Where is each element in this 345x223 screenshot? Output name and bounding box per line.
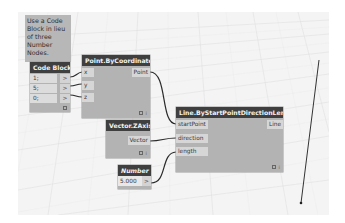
line-node-title: Line.ByStartPointDirectionLength bbox=[176, 107, 283, 118]
line-by-start-point-direction-length-node[interactable]: Line.ByStartPointDirectionLength startPo… bbox=[176, 107, 283, 172]
output-port-vector[interactable]: Vector bbox=[128, 136, 150, 145]
code-line-3[interactable]: 0; bbox=[30, 94, 57, 103]
info-icon[interactable]: i bbox=[146, 110, 147, 116]
code-line-1[interactable]: 1; bbox=[30, 74, 57, 83]
input-port-x[interactable]: x bbox=[82, 68, 94, 77]
input-port-z[interactable]: z bbox=[82, 93, 94, 102]
code-output-port-2[interactable]: > bbox=[60, 84, 70, 93]
input-port-direction[interactable]: direction bbox=[176, 134, 208, 143]
code-block-node[interactable]: Code Block 1; > 5; > 0; > bbox=[30, 62, 70, 112]
preview-icon[interactable] bbox=[272, 165, 276, 169]
preview-icon[interactable] bbox=[139, 151, 143, 155]
input-port-length[interactable]: length bbox=[176, 147, 208, 156]
info-icon[interactable]: i bbox=[279, 164, 280, 170]
number-node-title: Number bbox=[118, 165, 151, 176]
note-text: Use a Code Block in lieu of three Number… bbox=[27, 17, 65, 56]
code-output-port-3[interactable]: > bbox=[60, 94, 70, 103]
output-port-point[interactable]: Point bbox=[132, 68, 150, 77]
vector-zaxis-node[interactable]: Vector.ZAxis Vector i bbox=[106, 120, 150, 158]
number-node[interactable]: Number 5.000 > bbox=[118, 165, 151, 189]
preview-icon[interactable] bbox=[63, 106, 67, 110]
preview-icon[interactable] bbox=[139, 111, 143, 115]
vector-node-title: Vector.ZAxis bbox=[106, 120, 150, 131]
code-line-2[interactable]: 5; bbox=[30, 84, 57, 93]
node-footer: i bbox=[139, 150, 147, 156]
code-block-title: Code Block bbox=[30, 62, 70, 73]
info-icon[interactable]: i bbox=[146, 150, 147, 156]
input-port-startpoint[interactable]: startPoint bbox=[176, 120, 208, 129]
input-port-y[interactable]: y bbox=[82, 81, 94, 90]
code-output-port-1[interactable]: > bbox=[60, 74, 70, 83]
node-footer: i bbox=[272, 164, 280, 170]
node-footer: i bbox=[139, 110, 147, 116]
output-port-line[interactable]: Line bbox=[267, 120, 283, 129]
point-node-title: Point.ByCoordinates bbox=[82, 55, 150, 66]
node-footer bbox=[63, 106, 67, 110]
note-annotation[interactable]: Use a Code Block in lieu of three Number… bbox=[25, 15, 71, 62]
point-by-coordinates-node[interactable]: Point.ByCoordinates x y z Point i bbox=[82, 55, 150, 118]
number-value-input[interactable]: 5.000 bbox=[118, 176, 142, 186]
output-port-number[interactable]: > bbox=[142, 176, 151, 186]
